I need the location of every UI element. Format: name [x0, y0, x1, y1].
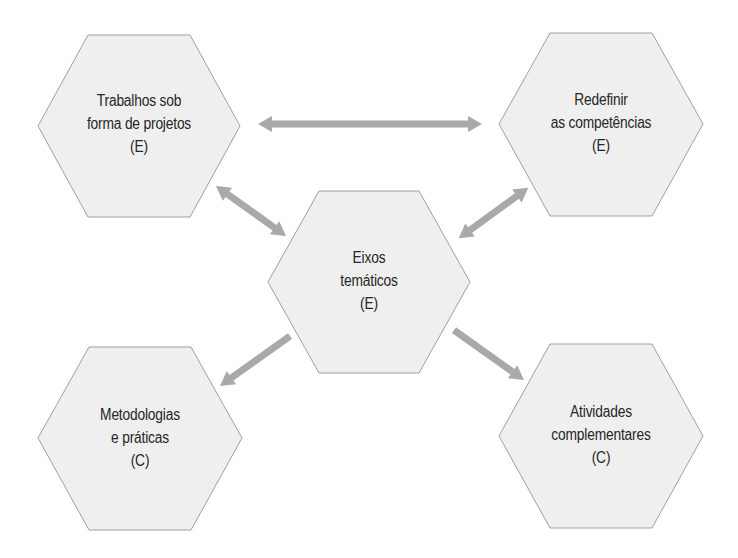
- diagram-canvas: [0, 0, 738, 558]
- double-arrow-upper-left: [211, 180, 290, 243]
- arrow-lower-right: [449, 324, 528, 387]
- arrow-lower-left: [215, 330, 294, 393]
- double-arrow-top: [258, 116, 482, 132]
- hexagon-redefinir: [499, 33, 703, 216]
- hexagon-trabalhos: [38, 35, 240, 217]
- hexagon-atividades: [499, 344, 703, 528]
- hexagon-eixos: [268, 191, 470, 373]
- hexagon-metodologias: [38, 347, 242, 530]
- double-arrow-upper-right: [454, 181, 533, 244]
